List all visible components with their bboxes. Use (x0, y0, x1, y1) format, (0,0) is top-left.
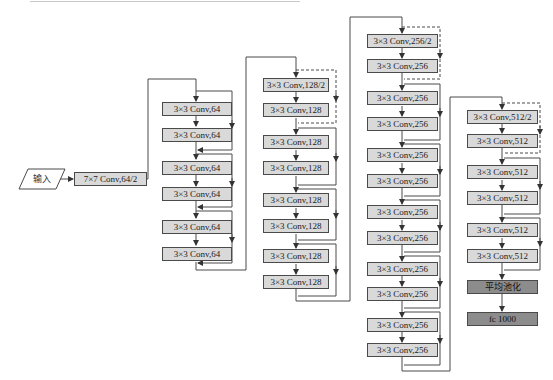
stage3-conv-box: 3×3 Conv,256 (367, 262, 438, 276)
stage4-conv-box: 3×3 Conv,512 (467, 165, 538, 179)
input-label: 输入 (18, 168, 66, 190)
stage4-conv-box: 3×3 Conv,512 (467, 134, 538, 148)
stage2-downsample-conv-box: 3×3 Conv,128/2 (263, 78, 329, 92)
resnet34-diagram: 输入 7×7 Conv,64/2 3×3 Conv,64 3×3 Conv,64… (0, 0, 553, 380)
stage4-conv-box: 3×3 Conv,512 (467, 249, 538, 263)
stage3-conv-box: 3×3 Conv,256 (367, 59, 438, 73)
stage2-conv-box: 3×3 Conv,128 (263, 193, 329, 207)
input-node: 输入 (18, 168, 66, 190)
stage4-conv-box: 3×3 Conv,512 (467, 191, 538, 205)
stage2-conv-box: 3×3 Conv,128 (263, 103, 329, 117)
fc-layer-box: fc 1000 (467, 312, 538, 326)
stage3-conv-box: 3×3 Conv,256 (367, 148, 438, 162)
stage4-conv-box: 3×3 Conv,512 (467, 223, 538, 237)
stage1-conv-box: 3×3 Conv,64 (162, 128, 232, 142)
stage3-conv-box: 3×3 Conv,256 (367, 174, 438, 188)
stage3-conv-box: 3×3 Conv,256 (367, 231, 438, 245)
stage1-conv-box: 3×3 Conv,64 (162, 187, 232, 201)
stage3-conv-box: 3×3 Conv,256 (367, 318, 438, 332)
stage2-conv-box: 3×3 Conv,128 (263, 249, 329, 263)
stem-conv-box: 7×7 Conv,64/2 (74, 172, 147, 186)
stage3-downsample-conv-box: 3×3 Conv,256/2 (367, 34, 438, 48)
stage1-conv-box: 3×3 Conv,64 (162, 161, 232, 175)
stage2-conv-box: 3×3 Conv,128 (263, 219, 329, 233)
stage3-conv-box: 3×3 Conv,256 (367, 117, 438, 131)
stage2-conv-box: 3×3 Conv,128 (263, 275, 329, 289)
stage4-downsample-conv-box: 3×3 Conv,512/2 (467, 110, 538, 124)
stage3-conv-box: 3×3 Conv,256 (367, 205, 438, 219)
stage2-conv-box: 3×3 Conv,128 (263, 161, 329, 175)
stage3-conv-box: 3×3 Conv,256 (367, 343, 438, 357)
stage3-conv-box: 3×3 Conv,256 (367, 91, 438, 105)
stage1-conv-box: 3×3 Conv,64 (162, 220, 232, 234)
stage1-conv-box: 3×3 Conv,64 (162, 247, 232, 261)
stage1-conv-box: 3×3 Conv,64 (162, 102, 232, 116)
stage2-conv-box: 3×3 Conv,128 (263, 135, 329, 149)
stage3-conv-box: 3×3 Conv,256 (367, 287, 438, 301)
avg-pool-box: 平均池化 (467, 280, 538, 294)
